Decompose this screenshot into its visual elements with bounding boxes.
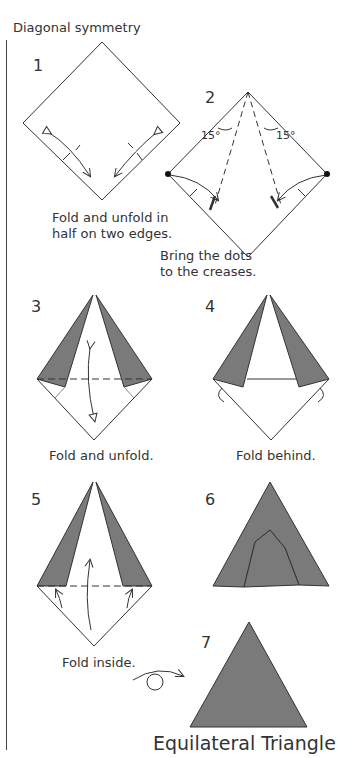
step3-number: 3 xyxy=(31,297,41,316)
caption-line: half on two edges. xyxy=(52,226,172,242)
caption-line: Bring the dots xyxy=(160,248,257,264)
step7-diagram xyxy=(133,622,307,727)
step2-number: 2 xyxy=(205,88,215,107)
final-title: Equilateral Triangle xyxy=(153,732,336,754)
step5-caption: Fold inside. xyxy=(62,655,136,671)
step3-caption: Fold and unfold. xyxy=(49,448,154,464)
step6-diagram xyxy=(213,482,329,587)
step2-right-dot xyxy=(324,171,330,177)
caption-line: Fold and unfold in xyxy=(52,210,172,226)
step1-number: 1 xyxy=(33,56,43,75)
step6-number: 6 xyxy=(205,490,215,509)
step5-diagram xyxy=(37,482,152,646)
step1-caption: Fold and unfold in half on two edges. xyxy=(52,210,172,242)
step2-caption: Bring the dots to the creases. xyxy=(160,248,257,280)
step2-angle-right: 15° xyxy=(276,129,296,142)
caption-line: to the creases. xyxy=(160,264,257,280)
step2-angle-left: 15° xyxy=(201,129,221,142)
step3-diagram xyxy=(37,295,152,440)
step4-number: 4 xyxy=(205,297,215,316)
step5-number: 5 xyxy=(31,490,41,509)
origami-diagrams: 15° 15° xyxy=(0,0,347,758)
step4-caption: Fold behind. xyxy=(236,448,316,464)
step7-number: 7 xyxy=(201,633,211,652)
step2-left-dot xyxy=(165,171,171,177)
step2-diagram xyxy=(168,92,327,257)
step1-diagram xyxy=(23,42,180,200)
step4-diagram xyxy=(213,295,329,440)
